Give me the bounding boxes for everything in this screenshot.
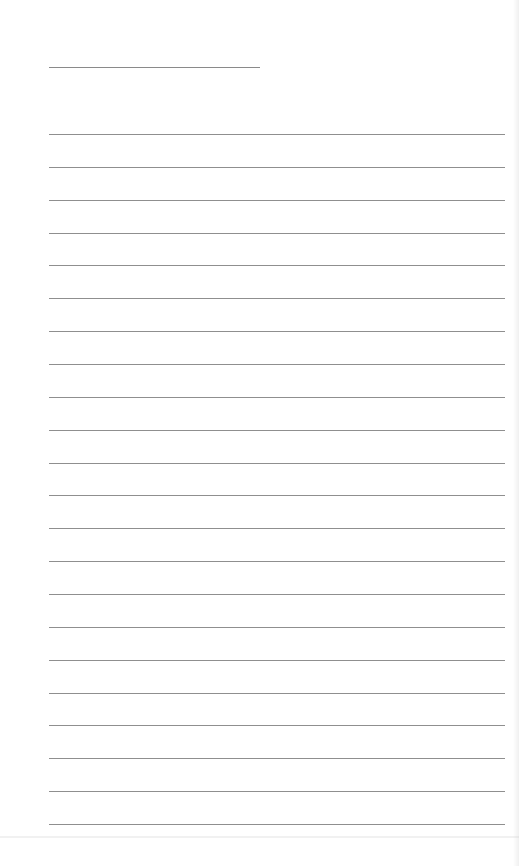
line-text [49,233,50,234]
line-text [49,265,50,266]
line-text [49,758,50,759]
ruled-line [49,528,505,529]
ruled-line [49,660,505,661]
ruled-line [49,331,505,332]
ruled-line [49,561,505,562]
line-text [49,200,50,201]
ruled-line [49,495,505,496]
page-bottom-shadow [0,836,519,838]
ruled-line [49,758,505,759]
ruled-line [49,594,505,595]
line-text [49,528,50,529]
line-text [49,134,50,135]
ruled-line [49,430,505,431]
line-text [49,167,50,168]
line-text [49,627,50,628]
line-text [49,495,50,496]
line-text [49,693,50,694]
lined-paper-page [0,0,519,866]
ruled-line [49,824,505,825]
ruled-line [49,725,505,726]
ruled-line [49,463,505,464]
line-text [49,725,50,726]
ruled-line [49,397,505,398]
line-text [49,397,50,398]
ruled-line [49,364,505,365]
ruled-line [49,134,505,135]
ruled-line [49,233,505,234]
line-text [49,824,50,825]
line-text [49,430,50,431]
ruled-line [49,791,505,792]
line-text [49,594,50,595]
line-text [49,463,50,464]
line-text [49,561,50,562]
ruled-line [49,627,505,628]
ruled-line [49,265,505,266]
page-edge-shadow [513,0,519,866]
ruled-line [49,298,505,299]
ruled-line [49,167,505,168]
line-text [49,660,50,661]
line-text [49,364,50,365]
title-line [49,67,260,68]
ruled-line [49,693,505,694]
line-text [49,791,50,792]
title-text [49,67,50,68]
ruled-line [49,200,505,201]
line-text [49,298,50,299]
line-text [49,331,50,332]
